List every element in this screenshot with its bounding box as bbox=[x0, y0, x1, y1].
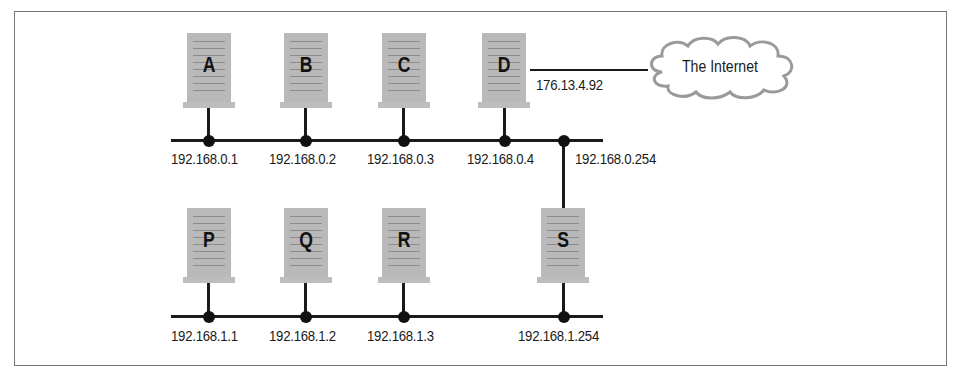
ip-label-s: 192.168.1.254 bbox=[518, 327, 599, 344]
router-link bbox=[562, 140, 565, 208]
internet-link bbox=[530, 69, 648, 71]
ip-label-r: 192.168.1.3 bbox=[367, 327, 434, 344]
upper-lan-bus bbox=[171, 139, 603, 142]
server-s: S bbox=[537, 208, 589, 283]
node-dot-s bbox=[558, 311, 570, 323]
server-label: P bbox=[191, 227, 226, 253]
server-label: C bbox=[386, 52, 421, 78]
node-dot-router-upper bbox=[558, 135, 570, 147]
server-a: A bbox=[183, 33, 235, 108]
server-p: P bbox=[183, 208, 235, 283]
server-q: Q bbox=[280, 208, 332, 283]
server-label: B bbox=[288, 52, 323, 78]
server-c: C bbox=[378, 33, 430, 108]
ip-label-router-upper: 192.168.0.254 bbox=[575, 150, 656, 167]
server-label: A bbox=[191, 52, 226, 78]
ip-label-b: 192.168.0.2 bbox=[269, 150, 336, 167]
cloud-label: The Internet bbox=[682, 58, 758, 76]
ip-label-p: 192.168.1.1 bbox=[171, 327, 238, 344]
server-label: Q bbox=[288, 227, 323, 253]
node-dot-c bbox=[398, 135, 410, 147]
ip-label-c: 192.168.0.3 bbox=[367, 150, 434, 167]
node-dot-b bbox=[300, 135, 312, 147]
node-dot-a bbox=[203, 135, 215, 147]
node-dot-r bbox=[398, 311, 410, 323]
server-d: D bbox=[478, 33, 530, 108]
server-b: B bbox=[280, 33, 332, 108]
server-label: S bbox=[545, 227, 580, 253]
lower-lan-bus bbox=[171, 315, 603, 318]
server-label: D bbox=[486, 52, 521, 78]
server-label: R bbox=[386, 227, 421, 253]
node-dot-q bbox=[300, 311, 312, 323]
ip-label-d-external: 176.13.4.92 bbox=[536, 76, 603, 93]
ip-label-d: 192.168.0.4 bbox=[467, 150, 534, 167]
ip-label-q: 192.168.1.2 bbox=[269, 327, 336, 344]
node-dot-d bbox=[499, 135, 511, 147]
node-dot-p bbox=[203, 311, 215, 323]
server-r: R bbox=[378, 208, 430, 283]
ip-label-a: 192.168.0.1 bbox=[171, 150, 238, 167]
